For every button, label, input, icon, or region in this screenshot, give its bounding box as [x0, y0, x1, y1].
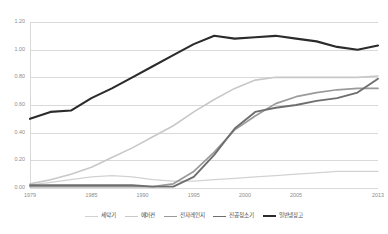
y-axis-tick-label: 0.20	[0, 158, 25, 163]
y-axis-tick-label: 0.60	[0, 102, 25, 107]
legend-color-swatch	[263, 215, 276, 217]
x-axis-tick-label: 2005	[290, 193, 302, 198]
x-axis-tick-label: 1979	[24, 193, 36, 198]
plot-area	[30, 22, 378, 188]
x-axis-tick-label: 1990	[137, 193, 149, 198]
line-chart: 1.201.000.800.600.400.200.00 19791985199…	[0, 0, 388, 234]
legend-label: 세탁기	[101, 213, 116, 219]
gridline	[30, 188, 378, 189]
legend-item[interactable]: 세탁기	[85, 213, 116, 219]
legend-item[interactable]: 에어컨	[125, 213, 156, 219]
x-axis-tick-labels: 1979198519901995200020052013	[30, 193, 378, 203]
legend-item[interactable]: 진공청소기	[213, 213, 253, 219]
y-axis-tick-label: 1.00	[0, 47, 25, 52]
x-axis-tick-label: 2000	[239, 193, 251, 198]
x-axis-tick-label: 1985	[85, 193, 97, 198]
y-axis-tick-label: 0.00	[0, 185, 25, 190]
y-axis-tick-label: 0.40	[0, 130, 25, 135]
x-axis-tick-label: 2013	[372, 193, 384, 198]
legend-label: 에어컨	[141, 213, 156, 219]
legend-color-swatch	[164, 216, 177, 217]
y-axis-tick-label: 0.80	[0, 75, 25, 80]
y-axis-tick-labels: 1.201.000.800.600.400.200.00	[0, 22, 27, 188]
series-line	[30, 171, 378, 185]
legend-label: 진공청소기	[229, 213, 253, 219]
chart-legend: 세탁기에어컨전자레인지진공청소기일반냉장고	[0, 209, 388, 223]
legend-item[interactable]: 전자레인지	[164, 213, 204, 219]
legend-color-swatch	[85, 216, 98, 217]
legend-color-swatch	[125, 216, 138, 217]
x-axis-tick-label: 1995	[188, 193, 200, 198]
legend-label: 전자레인지	[180, 213, 204, 219]
legend-item[interactable]: 일반냉장고	[263, 213, 303, 219]
legend-color-swatch	[213, 216, 226, 217]
series-lines	[30, 22, 378, 188]
y-axis-tick-label: 1.20	[0, 19, 25, 24]
legend-label: 일반냉장고	[279, 213, 303, 219]
